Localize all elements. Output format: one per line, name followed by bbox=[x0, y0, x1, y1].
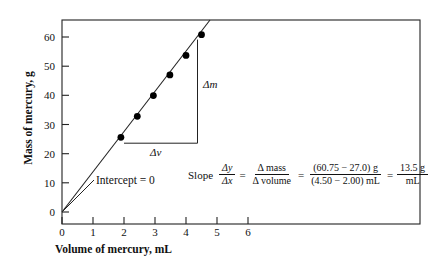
slope-equals-3: = bbox=[387, 169, 393, 181]
slope-term-numbers: (60.75 − 27.0) g (4.50 − 2.00) mL bbox=[308, 163, 383, 187]
x-tick-label-3: 3 bbox=[147, 226, 163, 238]
data-point bbox=[183, 52, 190, 59]
slope-term1-denominator: Δx bbox=[219, 175, 235, 187]
y-tick-label-40: 40 bbox=[33, 89, 55, 101]
y-tick-label-10: 10 bbox=[33, 177, 55, 189]
delta-v-label: Δv bbox=[150, 146, 161, 158]
data-point bbox=[150, 92, 157, 99]
slope-term-result: 13.5 g mL bbox=[397, 163, 428, 187]
plot-frame bbox=[62, 20, 420, 224]
y-tick-label-60: 60 bbox=[33, 31, 55, 43]
y-axis-ticks bbox=[62, 37, 69, 212]
x-tick-label-2: 2 bbox=[116, 226, 132, 238]
mercury-mass-volume-figure: 0 10 20 30 40 50 60 0 1 2 3 4 5 6 Mass o… bbox=[0, 0, 436, 268]
x-tick-label-6: 6 bbox=[240, 226, 256, 238]
x-tick-label-1: 1 bbox=[85, 226, 101, 238]
data-points bbox=[118, 31, 205, 140]
data-point bbox=[167, 72, 174, 79]
slope-term2-numerator: Δ mass bbox=[255, 163, 289, 175]
slope-term-dy-dx: Δy Δx bbox=[219, 163, 235, 187]
x-axis-ticks bbox=[62, 217, 248, 224]
y-tick-label-50: 50 bbox=[33, 60, 55, 72]
y-tick-label-0: 0 bbox=[33, 206, 55, 218]
data-point bbox=[118, 134, 125, 141]
intercept-leader-line bbox=[63, 180, 94, 211]
slope-equation: Slope Δy Δx = Δ mass Δ volume = (60.75 −… bbox=[188, 163, 429, 187]
slope-term3-denominator: (4.50 − 2.00) mL bbox=[308, 175, 383, 187]
slope-term4-numerator: 13.5 g bbox=[397, 163, 428, 175]
x-tick-label-4: 4 bbox=[178, 226, 194, 238]
slope-term3-numerator: (60.75 − 27.0) g bbox=[310, 163, 381, 175]
slope-term2-denominator: Δ volume bbox=[250, 175, 294, 187]
data-point bbox=[198, 31, 205, 38]
slope-term-mass-volume: Δ mass Δ volume bbox=[250, 163, 294, 187]
slope-equals-1: = bbox=[239, 169, 245, 181]
delta-m-label: Δm bbox=[203, 78, 217, 90]
slope-term4-denominator: mL bbox=[403, 175, 423, 187]
slope-equals-2: = bbox=[298, 169, 304, 181]
slope-word: Slope bbox=[188, 169, 213, 181]
y-axis-title: Mass of mercury, g bbox=[22, 48, 34, 188]
x-tick-label-0: 0 bbox=[54, 226, 70, 238]
y-tick-label-20: 20 bbox=[33, 148, 55, 160]
x-axis-title: Volume of mercury, mL bbox=[55, 243, 172, 255]
intercept-label: Intercept = 0 bbox=[96, 174, 155, 186]
data-point bbox=[134, 113, 141, 120]
y-tick-label-30: 30 bbox=[33, 119, 55, 131]
slope-term1-numerator: Δy bbox=[219, 163, 235, 175]
x-tick-label-5: 5 bbox=[209, 226, 225, 238]
